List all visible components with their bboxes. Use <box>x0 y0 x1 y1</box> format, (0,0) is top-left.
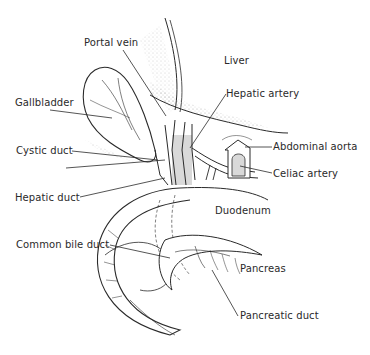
vessels <box>155 120 258 185</box>
label-pancreatic-duct: Pancreatic duct <box>240 310 319 322</box>
leader-pancreatic-duct <box>212 270 238 316</box>
label-cystic-duct: Cystic duct <box>16 145 73 157</box>
liver-shape <box>140 18 288 133</box>
leader-cystic-duct-2 <box>66 160 165 168</box>
anatomy-diagram: Portal vein Liver Gallbladder Hepatic ar… <box>0 0 370 355</box>
gallbladder-shape <box>83 67 155 162</box>
label-common-bile-duct: Common bile duct <box>16 239 109 251</box>
label-pancreas: Pancreas <box>240 263 286 275</box>
label-duodenum: Duodenum <box>215 205 271 217</box>
label-abdominal-aorta: Abdominal aorta <box>273 141 358 153</box>
label-hepatic-artery: Hepatic artery <box>226 88 299 100</box>
label-liver: Liver <box>224 55 249 67</box>
label-celiac-artery: Celiac artery <box>273 168 338 180</box>
leader-hepatic-artery <box>190 94 226 148</box>
label-gallbladder: Gallbladder <box>15 97 74 109</box>
label-portal-vein: Portal vein <box>84 37 138 49</box>
label-hepatic-duct: Hepatic duct <box>15 192 80 204</box>
